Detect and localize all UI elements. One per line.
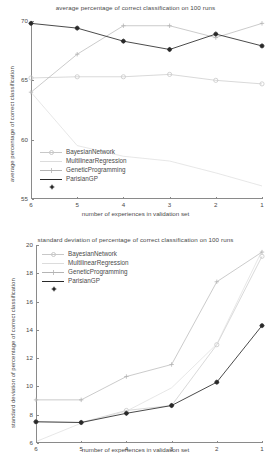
y-tick-mark [37, 358, 39, 359]
x-tick-mark [81, 441, 82, 443]
y-tick-mark [32, 199, 34, 200]
legend-label: MultilinearRegression [66, 157, 127, 164]
x-tick-label: 3 [164, 201, 176, 208]
x-tick-label: 6 [25, 201, 37, 208]
y-tick-label: 20 [11, 241, 33, 248]
y-tick-mark [37, 245, 39, 246]
y-tick-label: 65 [6, 76, 28, 83]
chart2-series-layer [0, 233, 271, 466]
x-tick-mark [123, 197, 124, 199]
legend-marker-circle-open [49, 150, 54, 155]
y-tick-mark [37, 273, 39, 274]
y-tick-mark [32, 140, 34, 141]
x-tick-label: 4 [117, 201, 129, 208]
y-tick-label: 8 [11, 411, 33, 418]
chart-standard-deviation: standard deviation of percentage of corr… [0, 233, 271, 466]
legend-line-swatch [40, 161, 62, 162]
x-tick-mark [172, 441, 173, 443]
legend-label: ParisianGP [66, 175, 98, 182]
legend-marker-star-filled [49, 177, 54, 182]
legend-label: BayesianNetwork [68, 250, 117, 257]
x-tick-mark [262, 197, 263, 199]
legend-label: BayesianNetwork [66, 148, 115, 155]
y-tick-label: 18 [11, 269, 33, 276]
x-tick-mark [31, 197, 32, 199]
x-tick-label: 5 [71, 201, 83, 208]
legend-line-swatch [42, 263, 64, 264]
legend-marker-circle-open [51, 252, 56, 257]
x-tick-mark [77, 197, 78, 199]
y-tick-mark [37, 330, 39, 331]
x-tick-mark [170, 197, 171, 199]
x-tick-mark [262, 441, 263, 443]
y-tick-label: 10 [11, 382, 33, 389]
legend-marker-star-filled [51, 279, 56, 284]
x-tick-label: 2 [210, 201, 222, 208]
y-tick-label: 70 [6, 17, 28, 24]
y-tick-label: 12 [11, 354, 33, 361]
legend-marker-plus [51, 270, 56, 275]
chart2-x-axis-label: number of experiences in validation set [0, 446, 271, 453]
y-tick-label: 14 [11, 326, 33, 333]
y-tick-label: 60 [6, 136, 28, 143]
x-tick-mark [216, 197, 217, 199]
chart-average-percentage: average percentage of correct classifica… [0, 0, 271, 233]
chart1-x-axis-label: number of experiences in validation set [0, 210, 271, 217]
y-tick-mark [37, 386, 39, 387]
legend-label: GeneticProgramming [68, 268, 128, 275]
legend-marker-plus [49, 168, 54, 173]
y-tick-label: 16 [11, 298, 33, 305]
y-tick-mark [37, 415, 39, 416]
y-tick-mark [32, 80, 34, 81]
x-tick-mark [126, 441, 127, 443]
x-tick-mark [36, 441, 37, 443]
legend-label: ParisianGP [68, 277, 100, 284]
y-tick-mark [37, 443, 39, 444]
y-tick-mark [37, 302, 39, 303]
y-tick-mark [32, 21, 34, 22]
x-tick-label: 1 [256, 201, 268, 208]
chart1-series-layer [0, 0, 271, 233]
legend-label: GeneticProgramming [66, 166, 126, 173]
legend-label: MultilinearRegression [68, 259, 129, 266]
x-tick-mark [217, 441, 218, 443]
